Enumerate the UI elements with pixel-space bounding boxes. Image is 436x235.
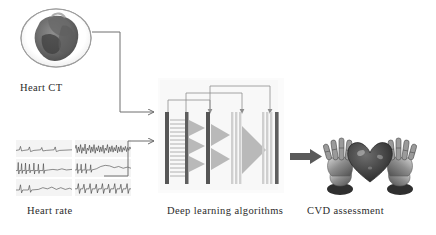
ecg-panel	[16, 159, 72, 176]
heart-shape	[348, 143, 393, 182]
edge-ct-to-network	[92, 32, 154, 112]
heart-rate-image-grid	[16, 140, 131, 196]
ecg-panel	[75, 179, 131, 196]
cvd-assessment-image	[318, 122, 422, 198]
ecg-panel	[75, 140, 131, 157]
ecg-panel	[16, 140, 72, 157]
ecg-panel	[16, 179, 72, 196]
figure-canvas: Heart CT	[0, 0, 436, 235]
heart-ct-image	[18, 6, 94, 72]
heart-ct-label: Heart CT	[20, 82, 63, 93]
ecg-panel	[75, 159, 131, 176]
cvd-assessment-label: CVD assessment	[307, 205, 384, 216]
heart-rate-label: Heart rate	[27, 205, 73, 216]
deep-learning-network-schematic	[158, 78, 284, 193]
deep-learning-label: Deep learning algorithms	[167, 205, 283, 216]
